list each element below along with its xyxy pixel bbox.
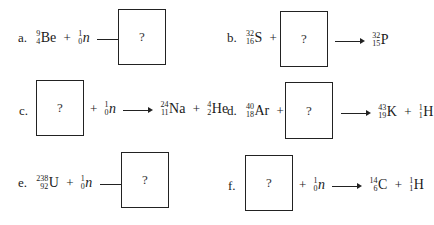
answer-box-b[interactable]: ?	[280, 11, 328, 67]
nuclide-na: 2411Na	[161, 102, 186, 118]
nuclide-c: 146C	[370, 178, 388, 194]
answer-box-f[interactable]: ?	[245, 155, 293, 211]
plus-sign: +	[270, 30, 277, 45]
nuclide-he: 42He	[207, 102, 228, 118]
plus-sign: +	[404, 104, 411, 119]
plus-sign: +	[395, 177, 402, 192]
equation-f-right: + 10n 146C + 11H	[295, 178, 424, 194]
reaction-arrow	[335, 37, 365, 46]
unknown-placeholder: ?	[37, 100, 83, 116]
equation-f-label: f.	[228, 179, 242, 192]
nuclide-neutron: 10n	[78, 31, 90, 47]
nuclide-neutron: 10n	[81, 176, 93, 192]
answer-box-e[interactable]: ?	[121, 152, 169, 208]
nuclide-s: 3216S	[246, 31, 262, 47]
equation-b-left: b. 3216S +	[227, 31, 281, 47]
answer-box-d[interactable]: ?	[285, 82, 333, 139]
problem-label: f.	[228, 178, 236, 193]
equation-c-label: c.	[19, 104, 34, 117]
equation-d-left: d. 4018Ar +	[227, 104, 288, 120]
equation-c-right: + 10n 2411Na + 42He	[86, 102, 228, 118]
answer-box-a[interactable]: ?	[118, 9, 166, 65]
nuclide-h: 11H	[409, 178, 424, 194]
unknown-placeholder: ?	[246, 175, 292, 191]
equation-d-right: 4319K + 11H	[337, 105, 433, 121]
unknown-placeholder: ?	[286, 103, 332, 119]
equation-a-left: a. 94Be + 10n	[18, 31, 131, 47]
plus-sign: +	[64, 30, 71, 45]
plus-sign: +	[277, 103, 284, 118]
reaction-arrow	[332, 182, 362, 191]
nuclide-ar: 4018Ar	[246, 104, 269, 120]
problem-label: a.	[18, 30, 27, 45]
plus-sign: +	[90, 101, 97, 116]
problem-label: d.	[227, 103, 237, 118]
plus-sign: +	[66, 175, 73, 190]
nuclide-neutron: 10n	[314, 178, 326, 194]
plus-sign: +	[193, 101, 200, 116]
problem-label: b.	[227, 30, 237, 45]
equation-e-left: e. 23892U + 10n	[18, 176, 134, 192]
answer-box-c[interactable]: ?	[36, 80, 84, 136]
unknown-placeholder: ?	[122, 172, 168, 188]
nuclide-u: 23892U	[36, 176, 59, 192]
equation-b-right: 3215P	[331, 33, 389, 49]
unknown-placeholder: ?	[119, 29, 165, 45]
nuclide-be: 94Be	[36, 31, 56, 47]
problem-label: c.	[19, 103, 28, 118]
nuclide-k: 4319K	[378, 105, 397, 121]
nuclide-neutron: 10n	[105, 102, 117, 118]
plus-sign: +	[299, 177, 306, 192]
reaction-arrow	[341, 109, 371, 118]
nuclide-h: 11H	[419, 105, 434, 121]
nuclide-p: 3215P	[372, 33, 388, 49]
reaction-arrow	[123, 106, 153, 115]
problem-label: e.	[18, 175, 27, 190]
unknown-placeholder: ?	[281, 31, 327, 47]
